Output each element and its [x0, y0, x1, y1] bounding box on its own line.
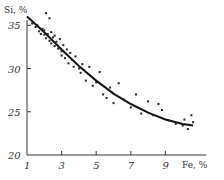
data-point	[43, 34, 45, 36]
data-point	[187, 128, 189, 130]
data-point	[102, 93, 104, 95]
y-tick-label: 35	[8, 20, 21, 31]
data-point	[190, 114, 192, 116]
data-point	[61, 55, 63, 57]
data-point	[42, 28, 44, 30]
data-point	[78, 68, 80, 70]
data-point	[57, 48, 59, 50]
data-point	[59, 38, 61, 40]
data-point	[106, 97, 108, 99]
data-point	[36, 24, 38, 26]
y-tick-label: 25	[7, 107, 21, 118]
x-tick-label: 9	[162, 160, 169, 171]
x-axis-label: Fe, %	[182, 160, 208, 170]
data-point	[52, 36, 54, 38]
data-point	[71, 59, 73, 61]
data-point	[135, 93, 137, 95]
data-point	[38, 30, 40, 32]
data-point	[40, 33, 42, 35]
data-point	[73, 66, 75, 68]
data-point	[85, 80, 87, 82]
chart: 20253035 13579 Si, % Fe, %	[0, 0, 224, 180]
data-point	[183, 119, 185, 121]
data-point	[48, 17, 50, 19]
data-point	[81, 63, 83, 65]
x-tick-label: 3	[59, 160, 65, 171]
data-point	[192, 121, 194, 123]
data-point	[50, 42, 52, 44]
data-point	[48, 40, 50, 42]
data-point	[43, 29, 45, 31]
data-point	[152, 114, 154, 116]
data-point	[35, 26, 37, 28]
data-point	[54, 45, 56, 47]
data-point	[74, 55, 76, 57]
data-point	[55, 41, 57, 43]
data-point	[68, 62, 70, 64]
data-point	[45, 12, 47, 14]
y-axis-label: Si, %	[4, 5, 28, 15]
data-point	[69, 52, 71, 54]
axes	[27, 20, 206, 155]
data-point	[168, 119, 170, 121]
data-point	[99, 71, 101, 73]
data-point	[64, 57, 66, 59]
data-point	[161, 109, 163, 111]
data-point	[140, 112, 142, 114]
data-point	[88, 66, 90, 68]
scatter-points	[31, 12, 194, 130]
x-tick-label: 1	[24, 160, 30, 171]
data-point	[62, 44, 64, 46]
data-point	[61, 50, 63, 52]
data-point	[54, 35, 56, 37]
data-point	[50, 31, 52, 33]
data-point	[47, 33, 49, 35]
data-point	[92, 85, 94, 87]
data-point	[80, 72, 82, 74]
data-point	[123, 99, 125, 101]
data-point	[147, 100, 149, 102]
x-ticks: 13579	[24, 151, 169, 171]
data-point	[130, 106, 132, 108]
data-point	[45, 37, 47, 39]
data-point	[157, 103, 159, 105]
y-tick-label: 30	[8, 64, 21, 75]
data-point	[66, 48, 68, 50]
data-point	[175, 123, 177, 125]
x-tick-label: 5	[93, 160, 99, 171]
data-point	[118, 82, 120, 84]
data-point	[109, 87, 111, 89]
y-tick-label: 20	[7, 150, 21, 161]
x-tick-label: 7	[128, 160, 135, 171]
data-point	[113, 102, 115, 104]
data-point	[95, 81, 97, 83]
data-point	[31, 23, 33, 25]
data-point	[182, 125, 184, 127]
